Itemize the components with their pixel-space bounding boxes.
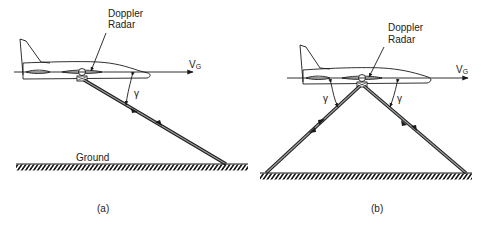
- radar-label-a-line2: Radar: [108, 19, 136, 30]
- angle-label-a: γ: [134, 88, 139, 99]
- angle-label-b-right: γ: [397, 93, 402, 104]
- angle-arc-gamma-left: [331, 83, 338, 107]
- radar-label-a-line1: Doppler: [108, 8, 144, 19]
- ground-surface-a: [16, 164, 248, 171]
- radar-pointer-arrow: [91, 33, 106, 71]
- aircraft-icon: [20, 39, 150, 79]
- ground-label: Ground: [76, 152, 109, 163]
- velocity-label-b: VG: [456, 64, 468, 75]
- angle-arc-gamma-right: [390, 83, 397, 107]
- radar-pointer-arrow: [369, 47, 384, 77]
- caption-b: (b): [371, 203, 383, 214]
- ground-surface-b: [260, 173, 472, 180]
- velocity-label-a: VG: [189, 59, 201, 70]
- radar-label-b-line1: Doppler: [388, 22, 424, 33]
- radar-label-b-line2: Radar: [388, 34, 416, 45]
- radar-beam-right: [364, 86, 466, 173]
- caption-a: (a): [97, 203, 109, 214]
- panel-b: Doppler Radar VG γ γ (b): [260, 22, 472, 214]
- panel-a: Doppler Radar VG γ Ground (a): [14, 8, 248, 214]
- angle-label-b-left: γ: [323, 93, 328, 104]
- radar-beam-left: [266, 86, 360, 173]
- doppler-radar-diagram: Doppler Radar VG γ Ground (a): [0, 0, 487, 225]
- angle-arc-gamma: [126, 76, 132, 105]
